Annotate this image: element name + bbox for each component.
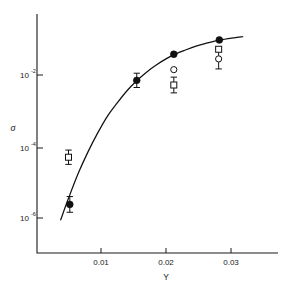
data-point-filled-circle	[133, 77, 140, 84]
y-axis-tick-labels: 10 -2 10 -4 10 -6	[20, 68, 36, 223]
x-tick-label-1: 0.02	[158, 258, 174, 267]
model-fit-curve	[61, 37, 243, 220]
data-point-open-circle	[171, 67, 177, 73]
y-tick-label-0: 10	[20, 71, 29, 80]
y-tick-label-1: 10	[20, 144, 29, 153]
x-axis-tick-labels: 0.01 0.02 0.03	[93, 258, 239, 267]
x-axis-ticks	[101, 248, 231, 253]
chart-svg: 10 -2 10 -4 10 -6 σ 0.01 0.02 0.03 Y	[0, 0, 285, 287]
y-axis-title: σ	[11, 122, 17, 133]
y-tick-exponent-2: -6	[31, 211, 36, 217]
chart-container: 10 -2 10 -4 10 -6 σ 0.01 0.02 0.03 Y	[0, 0, 285, 287]
x-tick-label-0: 0.01	[93, 258, 109, 267]
data-point-open-circle	[216, 56, 222, 62]
data-point-open-square	[216, 46, 222, 52]
data-point-open-square	[66, 154, 72, 160]
data-point-filled-circle	[170, 51, 177, 58]
data-point-open-square	[171, 82, 177, 88]
y-tick-label-2: 10	[20, 214, 29, 223]
x-tick-label-2: 0.03	[223, 258, 239, 267]
error-bars	[65, 49, 222, 212]
data-point-filled-circle	[216, 37, 223, 44]
data-point-filled-circle	[66, 201, 73, 208]
y-tick-exponent-1: -4	[31, 141, 36, 147]
y-tick-exponent-0: -2	[31, 68, 36, 74]
data-point-markers	[66, 37, 223, 208]
y-axis-ticks	[37, 75, 43, 218]
axis-spines	[37, 14, 278, 253]
x-axis-title: Y	[163, 272, 169, 282]
